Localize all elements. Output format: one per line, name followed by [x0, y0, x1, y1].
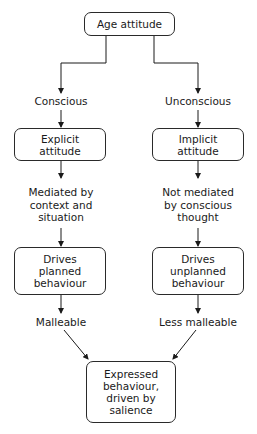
node-drives-planned-behaviour: Drives planned behaviour [14, 247, 106, 295]
label-not-mediated-line-1: Not mediated [162, 186, 234, 199]
flowchart-canvas: Age attitude Conscious Unconscious Expli… [0, 0, 257, 434]
node-planned-line-2: planned [39, 265, 81, 277]
node-implicit-line-1: Implicit [179, 133, 218, 145]
label-mediated: Mediated by context and situation [29, 186, 94, 224]
label-unconscious: Unconscious [165, 95, 231, 108]
label-mediated-line-3: situation [29, 211, 94, 224]
node-expressed-line-1: Expressed [104, 368, 158, 380]
node-expressed-line-2: behaviour, [103, 380, 159, 392]
node-planned-line-1: Drives [43, 253, 76, 265]
label-not-mediated-line-2: by conscious [162, 199, 234, 212]
node-explicit-attitude: Explicit attitude [14, 128, 106, 161]
label-malleable: Malleable [36, 316, 86, 329]
node-expressed-line-3: driven by [106, 392, 155, 404]
connector-malleable-to-expressed [64, 330, 88, 359]
node-unplanned-line-2: unplanned [170, 265, 226, 277]
label-less-malleable: Less malleable [159, 316, 237, 329]
connector-less-malleable-to-expressed [173, 330, 196, 359]
node-explicit-line-2: attitude [39, 145, 80, 157]
node-explicit-line-1: Explicit [41, 133, 79, 145]
node-unplanned-line-3: behaviour [172, 277, 225, 289]
connector-root-to-unconscious [154, 35, 198, 93]
node-implicit-attitude: Implicit attitude [152, 128, 244, 161]
node-unplanned-line-1: Drives [181, 253, 214, 265]
node-drives-unplanned-behaviour: Drives unplanned behaviour [152, 247, 244, 295]
label-mediated-line-2: context and [29, 199, 94, 212]
label-mediated-line-1: Mediated by [29, 186, 94, 199]
node-expressed-line-4: salience [109, 404, 152, 416]
node-implicit-line-2: attitude [177, 145, 218, 157]
label-conscious: Conscious [34, 95, 87, 108]
connector-root-to-conscious [61, 35, 106, 93]
label-not-mediated: Not mediated by conscious thought [162, 186, 234, 224]
label-not-mediated-line-3: thought [162, 211, 234, 224]
node-expressed-behaviour: Expressed behaviour, driven by salience [86, 361, 176, 423]
node-planned-line-3: behaviour [34, 277, 87, 289]
node-age-attitude: Age attitude [84, 12, 175, 36]
node-age-attitude-label: Age attitude [97, 18, 162, 30]
